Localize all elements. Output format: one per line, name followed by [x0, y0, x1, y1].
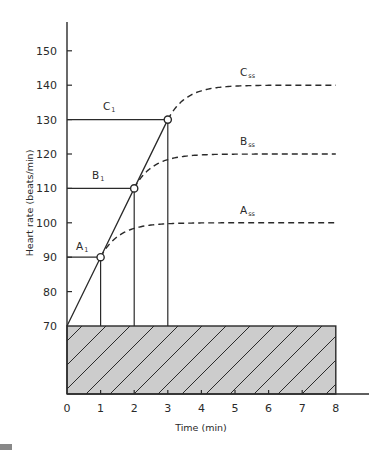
breakpoint-marker-c	[164, 116, 171, 123]
y-tick-label: 140	[36, 79, 57, 92]
initial-label-b: B1	[92, 169, 104, 183]
y-tick-label: 100	[36, 217, 57, 230]
y-tick-label: 130	[36, 114, 57, 127]
steady-state-curve-a	[101, 223, 336, 257]
y-tick-label: 150	[36, 45, 57, 58]
x-tick-label: 0	[64, 402, 71, 415]
x-tick-label: 8	[332, 402, 339, 415]
baseline-hatched-area	[67, 326, 336, 394]
x-tick-label: 4	[198, 402, 205, 415]
y-tick-label: 90	[43, 251, 57, 264]
x-tick-label: 2	[131, 402, 138, 415]
x-axis-title: Time (min)	[174, 422, 227, 433]
y-tick-label: 80	[43, 286, 57, 299]
x-tick-label: 5	[232, 402, 239, 415]
initial-label-c: C1	[103, 100, 115, 114]
y-tick-label: 70	[43, 320, 57, 333]
breakpoint-marker-b	[131, 185, 138, 192]
steady-state-curve-b	[134, 154, 336, 188]
steady-state-label-b: Bss	[240, 135, 256, 149]
steady-state-label-c: Css	[240, 66, 256, 80]
steady-state-curves	[101, 85, 336, 257]
breakpoint-marker-a	[97, 254, 104, 261]
linear-rise-line	[67, 120, 168, 326]
y-tick-label: 120	[36, 148, 57, 161]
y-axis-title: Heart rate (beats/min)	[24, 150, 35, 257]
steady-state-curve-c	[168, 85, 336, 119]
y-tick-label: 110	[36, 182, 57, 195]
x-tick-label: 6	[265, 402, 272, 415]
initial-label-a: A1	[76, 240, 88, 254]
corner-swatch	[0, 444, 12, 450]
x-tick-label: 1	[97, 402, 104, 415]
steady-state-label-a: Ass	[240, 204, 256, 218]
x-tick-label: 3	[164, 402, 171, 415]
x-tick-label: 7	[299, 402, 306, 415]
heart-rate-chart: 708090100110120130140150 012345678 A1Ass…	[0, 0, 386, 450]
